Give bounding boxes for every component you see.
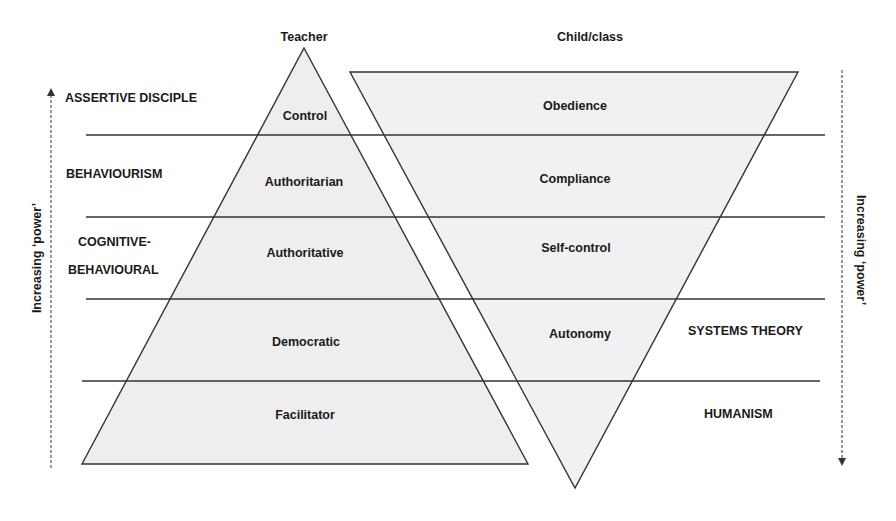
- child-level-self-control: Self-control: [541, 241, 610, 255]
- theory-assertive-discipline: ASSERTIVE DISCIPLE: [65, 91, 197, 105]
- teacher-level-democratic: Democratic: [272, 335, 340, 349]
- theory-behaviourism: BEHAVIOURISM: [66, 167, 162, 181]
- right-axis-label: Increasing ‘power’: [854, 195, 868, 305]
- theory-humanism: HUMANISM: [704, 407, 773, 421]
- theory-systems: SYSTEMS THEORY: [688, 324, 803, 338]
- teacher-header: Teacher: [280, 30, 327, 44]
- left-axis-label: Increasing ‘power’: [30, 203, 44, 313]
- theory-cognitive-line2: BEHAVIOURAL: [68, 263, 159, 277]
- teacher-level-authoritarian: Authoritarian: [265, 175, 343, 189]
- child-level-autonomy: Autonomy: [549, 327, 611, 341]
- teacher-level-authoritative: Authoritative: [266, 246, 343, 260]
- child-header: Child/class: [557, 30, 623, 44]
- diagram-canvas: [0, 0, 896, 521]
- theory-cognitive-line1: COGNITIVE-: [78, 235, 151, 249]
- teacher-level-facilitator: Facilitator: [275, 408, 335, 422]
- teacher-level-control: Control: [283, 109, 327, 123]
- power-diagram: Teacher Child/class ASSERTIVE DISCIPLE B…: [0, 0, 896, 521]
- child-level-obedience: Obedience: [543, 99, 607, 113]
- child-level-compliance: Compliance: [540, 172, 611, 186]
